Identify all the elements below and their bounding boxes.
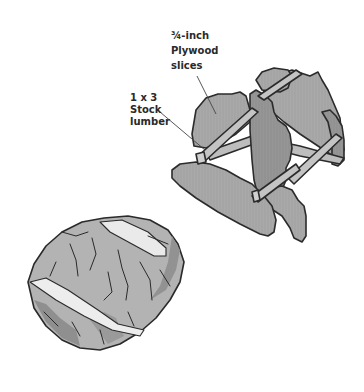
- callout-plywood-slices: ¾-inch Plywood slices: [171, 28, 218, 73]
- callout-plywood-line3: slices: [171, 58, 218, 73]
- lumber-end-left: [196, 152, 206, 164]
- callout-plywood-line2: Plywood: [171, 43, 218, 58]
- callout-stock-lumber: 1 x 3 Stock lumber: [130, 92, 170, 128]
- bread-loaf: [28, 216, 184, 350]
- callout-lumber-line2: Stock: [130, 104, 170, 116]
- callout-plywood-line1: ¾-inch: [171, 28, 218, 43]
- lumber-end-front: [252, 190, 260, 202]
- bread-stand: [172, 68, 344, 242]
- callout-lumber-line1: 1 x 3: [130, 92, 170, 104]
- callout-lumber-line3: lumber: [130, 116, 170, 128]
